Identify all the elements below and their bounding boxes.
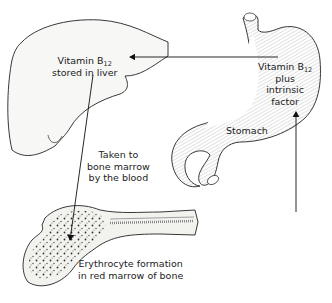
label-transport-line3: by the blood bbox=[89, 172, 149, 183]
label-liver: Vitamin B12 stored in liver bbox=[52, 55, 117, 78]
label-stomach: Stomach bbox=[226, 125, 268, 137]
label-liver-line2: stored in liver bbox=[52, 67, 117, 78]
label-stomach-content: Vitamin B12 plus intrinsic factor bbox=[258, 61, 312, 107]
label-bone: Erythrocyte formation in red marrow of b… bbox=[78, 258, 183, 281]
label-stomach-content-subscript: 12 bbox=[304, 66, 312, 74]
label-stomach-content-line1: Vitamin B bbox=[258, 61, 304, 72]
label-bone-line2: in red marrow of bone bbox=[78, 270, 183, 281]
liver-illustration bbox=[8, 20, 168, 156]
label-stomach-content-line4: factor bbox=[271, 96, 299, 107]
label-stomach-content-line3: intrinsic bbox=[266, 84, 304, 95]
label-liver-line1: Vitamin B bbox=[58, 55, 104, 66]
label-transport: Taken to bone marrow by the blood bbox=[87, 149, 150, 184]
label-stomach-content-line2: plus bbox=[275, 73, 295, 84]
label-transport-line1: Taken to bbox=[99, 149, 139, 160]
label-bone-line1: Erythrocyte formation bbox=[78, 258, 182, 269]
label-transport-line2: bone marrow bbox=[87, 161, 150, 172]
esophagus-opening bbox=[244, 13, 256, 21]
